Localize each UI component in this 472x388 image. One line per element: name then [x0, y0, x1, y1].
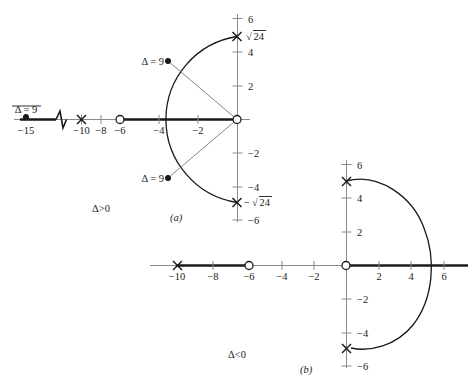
panel-b-ytick-label-4: −4	[357, 328, 369, 339]
root-canvas: −15 −10 −8 −6 −4 −2 6 4 2 −2 −4 −6 √ 24 …	[0, 0, 472, 388]
sqrt-radicand-lower: 24	[260, 197, 271, 208]
panel-b-xtick-label-4: −2	[308, 271, 319, 282]
panel-a-xtick-label-0: −15	[18, 125, 34, 136]
panel-a-ytick-label-5: −6	[248, 215, 259, 226]
panel-a-label: (a)	[170, 212, 183, 224]
panel-b-condition-label: Δ<0	[228, 349, 246, 360]
panel-a-radius-upper	[168, 61, 237, 120]
panel-a-dot-upper	[165, 58, 170, 63]
panel-b-ytick-label-1: 4	[357, 193, 363, 204]
panel-a-dot-minus15	[23, 114, 28, 119]
panel-b-xtick-label-5: 2	[376, 271, 381, 282]
panel-b-xtick-label-0: −10	[169, 271, 185, 282]
panel-a-delta-upper-label: Δ = 9	[141, 56, 164, 67]
panel-a-ytick-label-3: −2	[248, 148, 259, 159]
panel-b: −10 −8 −6 −4 −2 2 4 6 6 4 2 −2 −4 −6 Δ<0…	[150, 160, 468, 377]
panel-a-xtick-label-2: −8	[95, 125, 106, 136]
sqrt-radical-lower: √	[252, 197, 258, 208]
panel-a-delta-left-annotation: Δ = 9	[12, 104, 41, 115]
panel-a-ytick-label-2: 2	[248, 81, 253, 92]
panel-b-xtick-label-1: −8	[207, 271, 218, 282]
panel-a: −15 −10 −8 −6 −4 −2 6 4 2 −2 −4 −6 √ 24 …	[12, 14, 272, 227]
panel-a-ytick-label-4: −4	[248, 182, 260, 193]
figure-container: −15 −10 −8 −6 −4 −2 6 4 2 −2 −4 −6 √ 24 …	[0, 0, 472, 388]
panel-b-xtick-label-2: −6	[243, 271, 254, 282]
panel-a-ytick-label-1: 4	[248, 47, 254, 58]
panel-b-label: (b)	[300, 364, 313, 376]
panel-a-open-circle-minus6	[116, 116, 124, 124]
panel-a-xtick-label-3: −6	[114, 125, 125, 136]
panel-b-ytick-label-2: 2	[357, 227, 362, 238]
sqrt-radical-upper: √	[246, 31, 252, 42]
sqrt-radicand-upper: 24	[254, 31, 265, 42]
panel-a-xtick-label-4: −4	[153, 125, 165, 136]
panel-b-ytick-label-0: 6	[357, 160, 362, 171]
sqrt-minus-sign-lower: −	[244, 197, 250, 208]
panel-a-delta-lower-label: Δ = 9	[141, 173, 164, 184]
panel-a-open-circle-origin	[233, 116, 241, 124]
panel-b-xtick-label-6: 4	[408, 271, 414, 282]
panel-b-open-circle-minus6	[245, 262, 253, 270]
panel-b-open-circle-origin	[342, 262, 350, 270]
panel-a-ytick-label-0: 6	[248, 14, 253, 25]
panel-b-xtick-label-3: −4	[276, 271, 288, 282]
panel-a-xtick-label-1: −10	[73, 125, 89, 136]
panel-b-ytick-label-5: −6	[357, 361, 368, 372]
panel-b-xtick-label-7: 6	[441, 271, 446, 282]
panel-b-locus-curve	[346, 179, 431, 349]
panel-b-ytick-label-3: −2	[357, 294, 368, 305]
panel-a-sqrt24-lower-label: − √ 24	[244, 197, 272, 209]
panel-a-xtick-label-5: −2	[192, 125, 203, 136]
panel-a-sqrt24-upper-label: √ 24	[246, 31, 266, 43]
panel-a-condition-label: Δ>0	[92, 203, 110, 214]
panel-a-dot-lower	[165, 175, 170, 180]
